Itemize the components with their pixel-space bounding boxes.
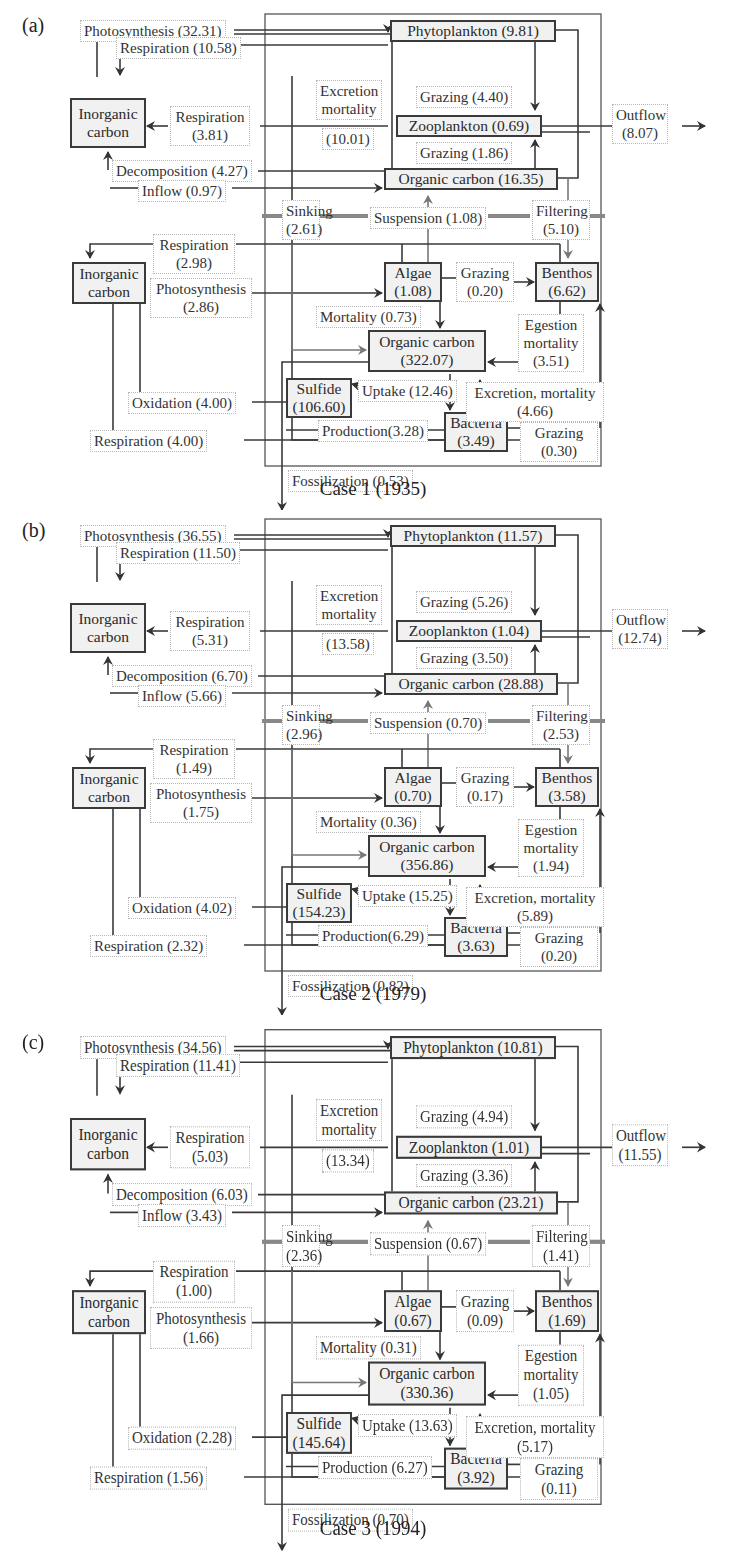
node-sulfide: Sulfide(106.60)	[286, 378, 352, 418]
panel-caption: Case 3 (1994)	[0, 1517, 746, 1540]
flow-excretion-mortality-bacteria: Excretion, mortality(4.66)	[466, 382, 604, 422]
node-organic-carbon-sediment: Organic carbon(356.86)	[368, 835, 486, 877]
flow-sinking: Sinking(2.36)	[282, 1225, 320, 1267]
flow-respiration-benthic: Respiration(1.49)	[153, 739, 235, 779]
flow-production: Production(3.28)	[318, 420, 428, 442]
flow-uptake: Uptake (15.25)	[358, 885, 457, 907]
flow-mortality: Mortality (0.36)	[316, 811, 421, 833]
flow-grazing-bacteria: Grazing(0.20)	[520, 927, 598, 967]
node-organic-carbon-sediment: Organic carbon(322.07)	[368, 330, 486, 372]
flow-photosynthesis-benthic: Photosynthesis(1.66)	[150, 1307, 252, 1349]
flow-respiration-bacteria: Respiration (1.56)	[90, 1467, 207, 1490]
flow-sinking: Sinking(2.96)	[282, 705, 320, 745]
flow-egestion-mortality: Egestionmortality(1.94)	[518, 819, 584, 877]
panel-tag: (b)	[22, 519, 45, 542]
flow-excretion-mortality-bacteria: Excretion, mortality(5.17)	[466, 1416, 604, 1458]
flow-excretion-mortality-value: (13.58)	[322, 633, 374, 655]
flow-sinking: Sinking(2.61)	[282, 200, 320, 240]
flow-respiration-bacteria: Respiration (2.32)	[90, 935, 207, 957]
flow-outflow: Outflow(8.07)	[612, 104, 668, 144]
node-phytoplankton: Phytoplankton (9.81)	[390, 20, 556, 42]
flow-inflow: Inflow (3.43)	[138, 1204, 226, 1227]
flow-production: Production(6.29)	[318, 925, 428, 947]
flow-mortality: Mortality (0.73)	[316, 306, 421, 328]
flow-outflow: Outflow(12.74)	[612, 609, 668, 649]
flow-excretion-mortality-bacteria: Excretion, mortality(5.89)	[466, 887, 604, 927]
flow-respiration-phytoplankton: Respiration (11.50)	[116, 542, 240, 564]
flow-excretion-mortality-value: (13.34)	[322, 1149, 374, 1172]
node-sulfide: Sulfide(154.23)	[286, 883, 352, 923]
flow-decomposition: Decomposition (6.03)	[112, 1183, 252, 1206]
flow-grazing-organic-carbon: Grazing (3.36)	[416, 1164, 512, 1187]
flow-grazing-algae: Grazing(0.20)	[456, 262, 514, 302]
panel-caption: Case 1 (1935)	[0, 478, 746, 500]
node-zooplankton: Zooplankton (1.04)	[396, 620, 542, 642]
node-inorganic-carbon-sediment: Inorganic carbon	[72, 767, 146, 809]
flow-suspension: Suspension (1.08)	[370, 207, 486, 229]
flow-grazing-bacteria: Grazing(0.30)	[520, 422, 598, 462]
node-benthos: Benthos(6.62)	[535, 262, 599, 302]
panel-caption: Case 2 (1979)	[0, 983, 746, 1005]
node-inorganic-carbon-water: Inorganic carbon	[70, 98, 146, 148]
flow-grazing-organic-carbon: Grazing (3.50)	[416, 647, 512, 669]
flow-decomposition: Decomposition (4.27)	[112, 160, 252, 182]
flow-respiration-zooplankton: Respiration(5.03)	[170, 1126, 250, 1168]
flow-photosynthesis-benthic: Photosynthesis(2.86)	[150, 278, 252, 318]
node-algae: Algae(1.08)	[384, 262, 442, 302]
flow-suspension: Suspension (0.70)	[370, 712, 486, 734]
flow-grazing-phytoplankton: Grazing (4.40)	[416, 86, 512, 108]
flow-outflow: Outflow(11.55)	[612, 1124, 668, 1166]
node-algae: Algae(0.67)	[384, 1290, 442, 1332]
node-inorganic-carbon-water: Inorganic carbon	[70, 603, 146, 653]
flow-production: Production (6.27)	[318, 1456, 432, 1479]
node-organic-carbon-water: Organic carbon (28.88)	[384, 673, 558, 695]
node-organic-carbon-water: Organic carbon (23.21)	[384, 1191, 558, 1214]
flow-mortality: Mortality (0.31)	[316, 1336, 421, 1359]
flow-grazing-algae: Grazing(0.17)	[456, 767, 514, 807]
flow-respiration-phytoplankton: Respiration (10.58)	[116, 37, 241, 59]
node-organic-carbon-sediment: Organic carbon(330.36)	[368, 1362, 486, 1406]
node-inorganic-carbon-water: Inorganic carbon	[70, 1118, 146, 1171]
flow-egestion-mortality: Egestionmortality(1.05)	[518, 1345, 584, 1406]
flow-inflow: Inflow (5.66)	[138, 685, 226, 707]
flow-grazing-phytoplankton: Grazing (5.26)	[416, 591, 512, 613]
flow-photosynthesis-benthic: Photosynthesis(1.75)	[150, 783, 252, 823]
flow-grazing-bacteria: Grazing(0.11)	[520, 1458, 598, 1500]
flow-uptake: Uptake (13.63)	[358, 1414, 457, 1437]
flow-excretion-mortality-label: Excretionmortality	[316, 80, 382, 120]
node-sulfide: Sulfide(145.64)	[286, 1412, 352, 1454]
node-algae: Algae(0.70)	[384, 767, 442, 807]
flow-suspension: Suspension (0.67)	[370, 1232, 486, 1255]
flow-grazing-algae: Grazing(0.09)	[456, 1290, 514, 1332]
flow-inflow: Inflow (0.97)	[138, 180, 226, 202]
node-inorganic-carbon-sediment: Inorganic carbon	[72, 262, 146, 304]
flow-excretion-mortality-label: Excretionmortality	[316, 1099, 382, 1141]
flow-oxidation: Oxidation (4.00)	[128, 392, 236, 414]
flow-oxidation: Oxidation (2.28)	[128, 1427, 236, 1450]
flow-filtering: Filtering(1.41)	[532, 1225, 590, 1267]
node-zooplankton: Zooplankton (0.69)	[396, 115, 542, 137]
panel-tag: (c)	[22, 1030, 44, 1054]
flow-excretion-mortality-value: (10.01)	[322, 128, 374, 150]
flow-excretion-mortality-label: Excretionmortality	[316, 585, 382, 625]
flow-filtering: Filtering(2.53)	[532, 705, 590, 745]
flow-respiration-bacteria: Respiration (4.00)	[90, 430, 207, 452]
node-phytoplankton: Phytoplankton (10.81)	[390, 1036, 556, 1059]
flow-grazing-phytoplankton: Grazing (4.94)	[416, 1105, 512, 1128]
flow-filtering: Filtering(5.10)	[532, 200, 590, 240]
node-inorganic-carbon-sediment: Inorganic carbon	[72, 1290, 146, 1334]
flow-oxidation: Oxidation (4.02)	[128, 897, 236, 919]
node-benthos: Benthos(1.69)	[535, 1290, 599, 1332]
flow-respiration-benthic: Respiration(2.98)	[153, 234, 235, 274]
node-organic-carbon-water: Organic carbon (16.35)	[384, 168, 558, 190]
flow-respiration-benthic: Respiration(1.00)	[153, 1261, 235, 1303]
flow-respiration-zooplankton: Respiration(3.81)	[170, 106, 250, 146]
flow-respiration-zooplankton: Respiration(5.31)	[170, 611, 250, 651]
flow-respiration-phytoplankton: Respiration (11.41)	[116, 1054, 240, 1077]
flow-egestion-mortality: Egestionmortality(3.51)	[518, 314, 584, 372]
node-benthos: Benthos(3.58)	[535, 767, 599, 807]
node-phytoplankton: Phytoplankton (11.57)	[390, 525, 556, 547]
flow-decomposition: Decomposition (6.70)	[112, 665, 252, 687]
panel-tag: (a)	[22, 14, 44, 37]
flow-grazing-organic-carbon: Grazing (1.86)	[416, 142, 512, 164]
